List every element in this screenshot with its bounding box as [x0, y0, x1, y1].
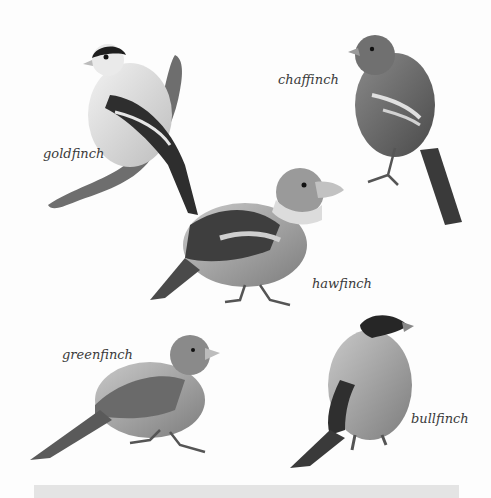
goldfinch-bird: [48, 44, 198, 215]
label-chaffinch: chaffinch: [278, 72, 339, 87]
bottom-paper-strip: [34, 485, 459, 498]
bullfinch-bird: [290, 315, 414, 468]
label-goldfinch: goldfinch: [43, 146, 104, 161]
label-bullfinch: bullfinch: [411, 411, 469, 426]
label-hawfinch: hawfinch: [312, 276, 372, 291]
chaffinch-bird: [348, 35, 462, 225]
label-greenfinch: greenfinch: [62, 347, 133, 362]
finch-illustration: goldfinch chaffinch hawfinch greenfinch …: [0, 0, 491, 498]
